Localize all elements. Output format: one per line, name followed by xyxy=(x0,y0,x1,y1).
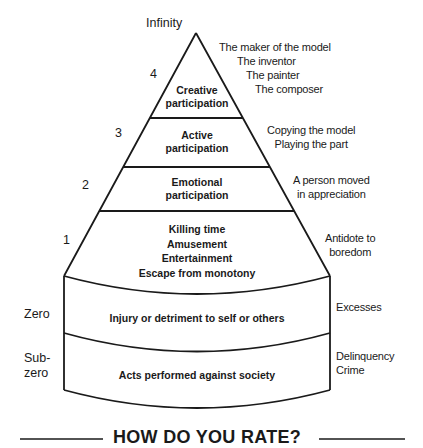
curve-bottom xyxy=(64,390,330,408)
level-3-label: Active participation xyxy=(150,129,244,155)
level-number-1: 1 xyxy=(63,233,70,247)
level-number-zero: Zero xyxy=(24,307,50,321)
level-subzero-desc: Delinquency Crime xyxy=(336,349,394,377)
apex-label: Infinity xyxy=(146,16,182,30)
level-number-4: 4 xyxy=(150,67,157,81)
level-zero-label: Injury or detriment to self or others xyxy=(80,312,314,325)
level-zero-desc: Excesses xyxy=(336,300,381,314)
level-1-desc: Antidote to boredom xyxy=(325,231,375,259)
level-number-2: 2 xyxy=(82,178,89,192)
curve-zero-subzero xyxy=(64,333,330,352)
level-1-label: Killing time Amusement Entertainment Esc… xyxy=(120,222,274,280)
level-number-subzero: Sub- zero xyxy=(24,351,50,381)
level-2-desc: A person moved in appreciation xyxy=(293,173,370,201)
level-4-desc: The maker of the model The inventor The … xyxy=(219,40,331,96)
level-number-3: 3 xyxy=(115,126,122,140)
level-subzero-label: Acts performed against society xyxy=(80,369,314,382)
level-3-desc: Copying the model Playing the part xyxy=(267,123,355,151)
level-2-label: Emotional participation xyxy=(150,176,244,202)
diagram-title: HOW DO YOU RATE? xyxy=(113,427,301,448)
